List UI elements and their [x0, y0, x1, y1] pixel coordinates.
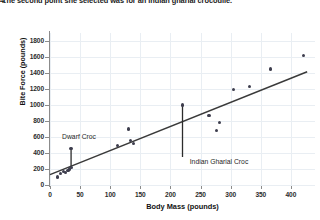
data-point: [232, 88, 235, 91]
y-tick-label: 1800: [2, 37, 44, 44]
x-tick-label: 350: [246, 191, 276, 198]
data-point: [218, 121, 221, 124]
data-point: [132, 142, 135, 145]
annotation-label: Dwarf Croc: [62, 133, 96, 140]
data-point: [215, 129, 218, 132]
data-point: [207, 114, 210, 117]
data-point: [70, 166, 73, 169]
data-point: [116, 144, 119, 147]
annotation-label: Indian Gharial Croc: [190, 158, 249, 165]
x-tick-label: 300: [216, 191, 246, 198]
x-tick-label: 0: [35, 191, 65, 198]
gridline-horizontal: [50, 185, 315, 186]
data-point: [127, 127, 130, 130]
data-point: [302, 54, 305, 57]
data-point: [69, 147, 72, 150]
data-point: [56, 175, 59, 178]
scatter-chart: Bite Force (pounds) Body Mass (pounds) 0…: [0, 9, 320, 220]
x-tick-label: 100: [95, 191, 125, 198]
x-tick-label: 200: [155, 191, 185, 198]
data-point: [269, 67, 272, 70]
y-tick-label: 1400: [2, 69, 44, 76]
x-tick-label: 400: [276, 191, 306, 198]
y-tick-label: 800: [2, 117, 44, 124]
y-tick-label: 1200: [2, 85, 44, 92]
data-point: [181, 103, 184, 106]
y-tick-label: 1000: [2, 101, 44, 108]
x-tick-label: 50: [65, 191, 95, 198]
x-tick-label: 250: [186, 191, 216, 198]
y-tick-label: 600: [2, 133, 44, 140]
y-tick-label: 400: [2, 149, 44, 156]
x-tick-label: 150: [125, 191, 155, 198]
y-tick-label: 1600: [2, 53, 44, 60]
plot-area: [50, 33, 315, 185]
data-point: [248, 85, 251, 88]
data-points: [50, 33, 315, 185]
y-tick-label: 0: [2, 181, 44, 188]
question-strip: 4. The second point she selected was for…: [0, 0, 320, 9]
question-text: The second point she selected was for an…: [2, 0, 232, 5]
x-axis-title: Body Mass (pounds): [50, 202, 315, 211]
y-tick-label: 200: [2, 165, 44, 172]
